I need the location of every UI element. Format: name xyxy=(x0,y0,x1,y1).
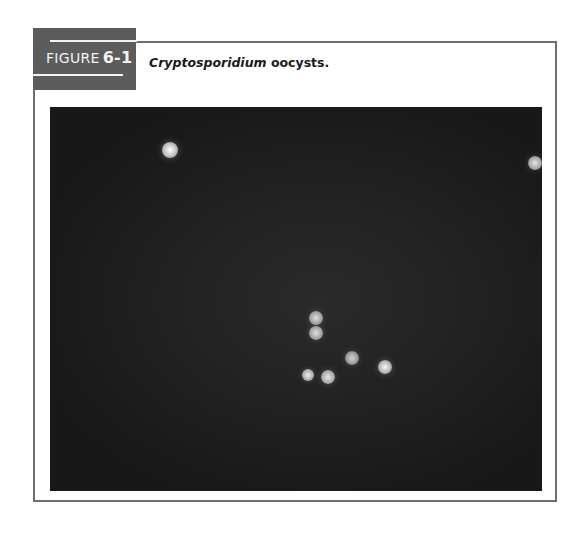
oocyst xyxy=(309,311,323,325)
oocyst xyxy=(162,142,178,158)
oocyst xyxy=(321,370,335,384)
oocyst xyxy=(528,156,542,170)
label-rule-top xyxy=(50,40,137,42)
figure-label-word: FIGURE xyxy=(46,50,100,66)
oocyst xyxy=(302,369,314,381)
micrograph-image xyxy=(50,107,542,491)
figure-label-number: 6-1 xyxy=(103,48,133,67)
figure-label: FIGURE6-1 xyxy=(46,47,132,69)
label-rule-bottom xyxy=(33,74,123,76)
oocyst xyxy=(345,351,359,365)
caption-rest: oocysts. xyxy=(267,55,330,70)
figure-caption: Cryptosporidium oocysts. xyxy=(149,53,329,73)
oocyst xyxy=(309,326,323,340)
caption-italic: Cryptosporidium xyxy=(149,55,267,70)
oocyst xyxy=(378,360,392,374)
